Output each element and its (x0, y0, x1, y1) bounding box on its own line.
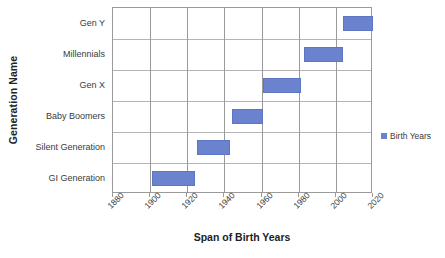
x-axis-title: Span of Birth Years (112, 231, 372, 243)
y-axis-tick-label: Baby Boomers (26, 100, 110, 131)
bar-gen-x[interactable] (263, 78, 300, 93)
y-axis-tick-label: Millennials (26, 38, 110, 69)
y-axis-title-label: Generation Name (7, 56, 19, 144)
chart-legend: Birth Years (381, 131, 431, 141)
x-axis-title-label: Span of Birth Years (194, 231, 291, 243)
y-axis-tick-labels: Gen YMillennialsGen XBaby BoomersSilent … (26, 7, 110, 193)
chart-container: Generation Name Gen YMillennialsGen XBab… (0, 0, 445, 258)
bar-gi-generation[interactable] (152, 171, 195, 186)
bar-row (113, 70, 371, 101)
legend-swatch-icon (381, 133, 387, 139)
legend-item-label: Birth Years (390, 131, 431, 141)
y-axis-title: Generation Name (0, 0, 26, 200)
bar-row (113, 101, 371, 132)
y-axis-tick-label: Gen Y (26, 7, 110, 38)
bar-row (113, 8, 371, 39)
y-axis-tick-label: Silent Generation (26, 131, 110, 162)
bar-row (113, 132, 371, 163)
bar-gen-y[interactable] (343, 16, 373, 31)
y-axis-tick-label: Gen X (26, 69, 110, 100)
bar-millennials[interactable] (304, 47, 343, 62)
bar-row (113, 39, 371, 70)
x-axis-tick-labels: 18801900192019401960198020002020 (92, 197, 412, 227)
plot-area (112, 7, 372, 193)
bar-silent-generation[interactable] (197, 140, 230, 155)
y-axis-tick-label: GI Generation (26, 162, 110, 193)
bar-baby-boomers[interactable] (232, 109, 264, 124)
